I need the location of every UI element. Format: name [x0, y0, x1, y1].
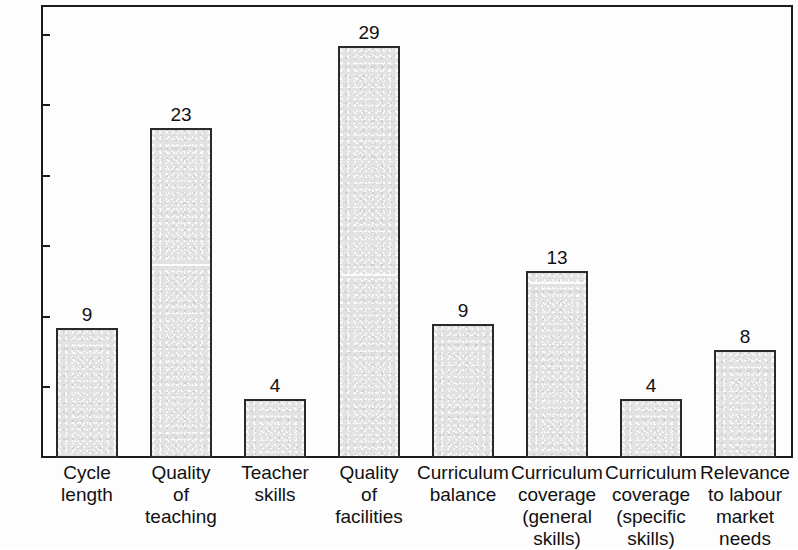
x-label-line: skills): [504, 528, 610, 550]
x-label-teacher-skills: Teacher skills: [233, 462, 317, 506]
bar-value-label: 8: [714, 326, 776, 347]
x-label-line: facilities: [324, 506, 414, 528]
bar-rect: [714, 350, 776, 458]
x-label-line: (general: [504, 506, 610, 528]
bar-rect: [338, 46, 400, 458]
x-label-cycle-length: Cycle length: [47, 462, 127, 506]
x-label-line: Curriculum: [598, 462, 704, 484]
x-label-line: of: [324, 484, 414, 506]
x-label-line: coverage: [598, 484, 704, 506]
x-label-line: coverage: [504, 484, 610, 506]
bar-value-label: 23: [150, 104, 212, 125]
x-label-line: Cycle: [47, 462, 127, 484]
x-label-quality-of-facilities: Quality of facilities: [324, 462, 414, 528]
x-label-line: Curriculum: [504, 462, 610, 484]
x-label-line: Teacher: [233, 462, 317, 484]
scan-artifact: [342, 274, 396, 276]
x-label-curriculum-balance: Curriculum balance: [410, 462, 516, 506]
x-axis-labels: Cycle length Quality of teaching Teacher…: [0, 462, 798, 547]
x-label-line: Curriculum: [410, 462, 516, 484]
x-label-line: skills: [233, 484, 317, 506]
bar-value-label: 9: [56, 304, 118, 325]
bar-value-label: 13: [526, 247, 588, 268]
x-label-line: Relevance: [692, 462, 798, 484]
x-label-line: (specific: [598, 506, 704, 528]
bar-rect: [620, 399, 682, 458]
x-label-line: to labour: [692, 484, 798, 506]
bar-value-label: 9: [432, 300, 494, 321]
x-label-line: skills): [598, 528, 704, 550]
bar-rect: [432, 324, 494, 458]
bar-rect: [56, 328, 118, 458]
x-label-line: Quality: [135, 462, 227, 484]
x-label-line: needs: [692, 528, 798, 550]
x-label-relevance-to-labour-market-needs: Relevance to labour market needs: [692, 462, 798, 550]
bar-rect: [150, 128, 212, 458]
x-label-line: of: [135, 484, 227, 506]
x-label-line: market: [692, 506, 798, 528]
x-label-curriculum-coverage-specific: Curriculum coverage (specific skills): [598, 462, 704, 550]
bar-value-label: 4: [244, 375, 306, 396]
bar-value-label: 29: [338, 22, 400, 43]
x-label-line: balance: [410, 484, 516, 506]
x-label-curriculum-coverage-general: Curriculum coverage (general skills): [504, 462, 610, 550]
x-label-line: length: [47, 484, 127, 506]
scan-artifact: [154, 264, 208, 266]
x-label-line: teaching: [135, 506, 227, 528]
bar-rect: [244, 399, 306, 458]
scan-artifact: [530, 282, 584, 284]
bar-rect: [526, 271, 588, 458]
x-label-quality-of-teaching: Quality of teaching: [135, 462, 227, 528]
bar-value-label: 4: [620, 375, 682, 396]
x-label-line: Quality: [324, 462, 414, 484]
